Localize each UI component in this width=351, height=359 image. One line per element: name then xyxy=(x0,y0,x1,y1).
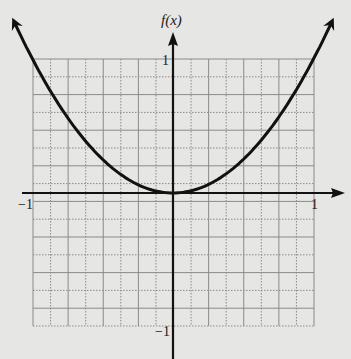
y-axis-label: f(x) xyxy=(161,12,182,29)
x-max-tick-label: 1 xyxy=(311,197,318,213)
function-graph xyxy=(0,0,351,359)
x-min-tick-label: −1 xyxy=(18,197,33,213)
y-max-tick-label: 1 xyxy=(162,53,169,69)
y-min-tick-label: −1 xyxy=(155,324,170,340)
x-axis-arrow-icon xyxy=(331,188,345,198)
y-axis-arrow-icon xyxy=(168,32,178,46)
